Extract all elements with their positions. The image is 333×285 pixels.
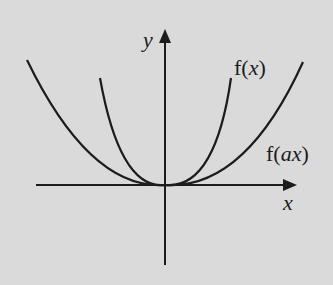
x-axis-label: x: [282, 190, 293, 215]
curve-label-f-x: f(x): [234, 55, 266, 80]
diagram-canvas: y x f(x) f(ax): [0, 0, 333, 285]
function-graph: y x f(x) f(ax): [0, 0, 333, 285]
curve-label-f-ax: f(ax): [266, 141, 309, 166]
y-axis-arrow-icon: [159, 29, 171, 43]
y-axis-label: y: [141, 27, 153, 52]
